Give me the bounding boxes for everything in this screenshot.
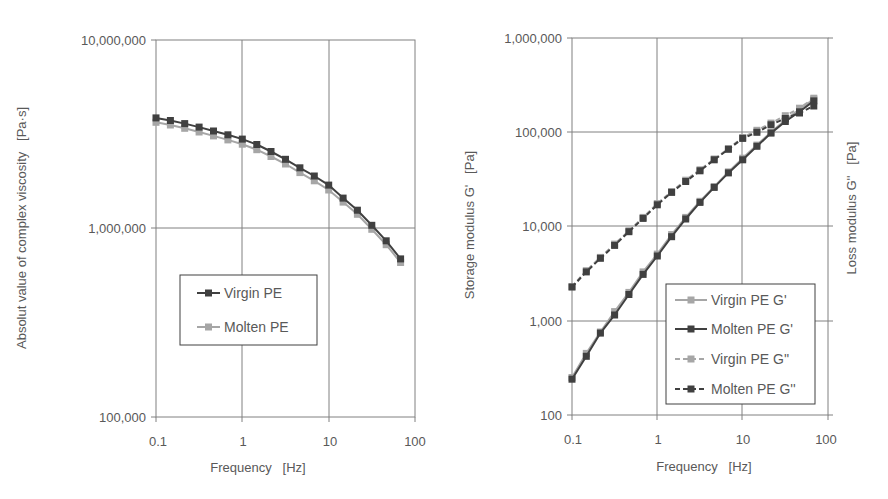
data-point-marker xyxy=(796,110,803,117)
data-point-marker xyxy=(597,255,604,262)
data-point-marker xyxy=(625,291,632,298)
data-point-marker xyxy=(725,169,732,176)
data-point-marker xyxy=(768,121,775,128)
left-x-tick-100: 100 xyxy=(404,434,426,449)
data-point-marker xyxy=(782,115,789,122)
right-y-tick-100k: 100,000 xyxy=(515,125,562,140)
data-point-marker xyxy=(697,167,704,174)
right-y-tick-100: 100 xyxy=(540,408,562,423)
right-x-tick-100: 100 xyxy=(815,432,837,447)
right-x-tick-10: 10 xyxy=(736,432,750,447)
data-point-marker xyxy=(224,131,231,138)
data-point-marker xyxy=(753,129,760,136)
figure: 10,000,000 1,000,000 100,000 0.1 1 10 10… xyxy=(0,0,888,499)
data-point-marker xyxy=(654,253,661,260)
legend-molten-pe-gdoubleprime: Molten PE G'' xyxy=(711,381,796,397)
right-y2-axis-label: Loss modulus G'' [Pa] xyxy=(844,142,859,275)
data-point-marker xyxy=(569,284,576,291)
right-y-tick-10k: 10,000 xyxy=(522,219,562,234)
right-y-axis-label: Storage modulus G' [Pa] xyxy=(462,151,477,299)
right-y-tick-1k: 1,000 xyxy=(529,314,562,329)
right-x-tick-1: 1 xyxy=(654,432,661,447)
data-point-marker xyxy=(711,184,718,191)
left-y-tick-10m: 10,000,000 xyxy=(81,33,146,48)
data-point-marker xyxy=(397,255,404,262)
data-point-marker xyxy=(668,189,675,196)
left-x-axis-label: Frequency [Hz] xyxy=(210,460,305,475)
data-point-marker xyxy=(640,215,647,222)
series-line xyxy=(156,118,401,259)
data-point-marker xyxy=(768,130,775,137)
right-x-axis-label: Frequency [Hz] xyxy=(656,459,751,474)
data-point-marker xyxy=(810,103,817,110)
data-point-marker xyxy=(682,216,689,223)
data-point-marker xyxy=(340,195,347,202)
data-point-marker xyxy=(383,237,390,244)
data-point-marker xyxy=(611,312,618,319)
left-series xyxy=(153,114,405,266)
right-y-tick-1m: 1,000,000 xyxy=(504,31,562,46)
left-y-axis-label: Absolut value of complex viscosity [Pa·s… xyxy=(14,107,29,349)
legend-molten-pe: Molten PE xyxy=(224,319,289,335)
data-point-marker xyxy=(311,173,318,180)
data-point-marker xyxy=(354,207,361,214)
series-line xyxy=(156,122,401,262)
data-point-marker xyxy=(597,330,604,337)
legend-virgin-pe: Virgin PE xyxy=(224,285,282,301)
data-point-marker xyxy=(725,146,732,153)
legend-virgin-pe-gdoubleprime: Virgin PE G'' xyxy=(711,351,789,367)
data-point-marker xyxy=(625,228,632,235)
data-point-marker xyxy=(268,148,275,155)
data-point-marker xyxy=(682,178,689,185)
data-point-marker xyxy=(654,201,661,208)
data-point-marker xyxy=(239,136,246,143)
data-point-marker xyxy=(668,233,675,240)
left-x-tick-10: 10 xyxy=(323,434,337,449)
data-point-marker xyxy=(611,242,618,249)
data-point-marker xyxy=(196,124,203,131)
data-point-marker xyxy=(282,156,289,163)
data-point-marker xyxy=(296,164,303,171)
left-x-tick-1: 1 xyxy=(239,434,246,449)
left-y-tick-1m: 1,000,000 xyxy=(88,221,146,236)
left-legend: Virgin PE Molten PE xyxy=(180,275,317,345)
left-grid xyxy=(156,40,415,417)
data-point-marker xyxy=(583,268,590,275)
data-point-marker xyxy=(153,114,160,121)
data-point-marker xyxy=(583,353,590,360)
data-point-marker xyxy=(711,156,718,163)
data-point-marker xyxy=(569,376,576,383)
data-point-marker xyxy=(739,135,746,142)
legend-virgin-pe-gprime: Virgin PE G' xyxy=(711,292,787,308)
data-point-marker xyxy=(181,120,188,127)
data-point-marker xyxy=(210,128,217,135)
viscosity-chart: 10,000,000 1,000,000 100,000 0.1 1 10 10… xyxy=(14,33,426,475)
data-point-marker xyxy=(739,156,746,163)
data-point-marker xyxy=(753,143,760,150)
right-x-tick-0.1: 0.1 xyxy=(564,432,582,447)
right-legend: Virgin PE G' Molten PE G' Virgin PE G'' … xyxy=(666,284,815,404)
left-x-tick-0.1: 0.1 xyxy=(149,434,167,449)
data-point-marker xyxy=(325,182,332,189)
legend-molten-pe-gprime: Molten PE G' xyxy=(711,321,793,337)
data-point-marker xyxy=(697,199,704,206)
modulus-chart: 1,000,000 100,000 10,000 1,000 100 0.1 1… xyxy=(462,31,859,474)
data-point-marker xyxy=(253,141,260,148)
data-point-marker xyxy=(368,222,375,229)
data-point-marker xyxy=(167,117,174,124)
data-point-marker xyxy=(640,271,647,278)
left-y-tick-100k: 100,000 xyxy=(99,410,146,425)
series-line xyxy=(572,106,814,287)
